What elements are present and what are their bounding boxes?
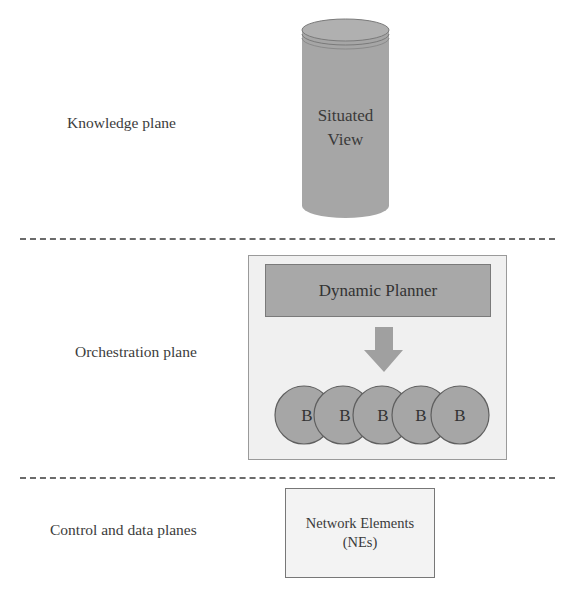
down-arrow-icon bbox=[364, 327, 403, 372]
network-elements-box: Network Elements (NEs) bbox=[285, 488, 435, 578]
network-elements-line2: (NEs) bbox=[343, 533, 378, 552]
network-elements-line1: Network Elements bbox=[306, 514, 414, 533]
behavior-label: B bbox=[377, 406, 388, 425]
behavior-label: B bbox=[415, 406, 426, 425]
behavior-circles: B B B B B bbox=[275, 386, 489, 444]
behavior-label: B bbox=[339, 406, 350, 425]
behavior-label: B bbox=[454, 406, 465, 425]
orchestration-graphics: B B B B B bbox=[0, 0, 568, 599]
behavior-label: B bbox=[301, 406, 312, 425]
